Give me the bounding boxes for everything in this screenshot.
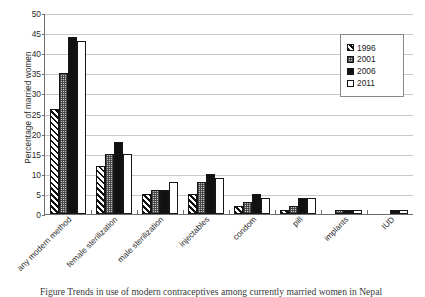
bar-1996-pill[interactable] xyxy=(280,210,289,214)
legend-swatch-diagonal-hatch-icon xyxy=(347,44,354,51)
legend-label: 1996 xyxy=(357,44,376,52)
bar-2001-pill[interactable] xyxy=(289,206,298,214)
bar-1996-condom[interactable] xyxy=(234,206,243,214)
legend-label: 2006 xyxy=(357,67,376,75)
y-axis-tick-label: 35 xyxy=(32,69,41,79)
y-axis-tick-label: 30 xyxy=(32,89,41,99)
x-axis-tick-labels: any modern methodfemale sterilizationmal… xyxy=(44,215,413,285)
bar-2011-implants[interactable] xyxy=(353,210,362,214)
bar-2011-IUD[interactable] xyxy=(399,210,408,214)
x-axis-tick-label: IUD xyxy=(249,215,397,297)
bar-2001-condom[interactable] xyxy=(243,202,252,214)
bar-2006-pill[interactable] xyxy=(298,198,307,214)
bar-group xyxy=(45,14,91,214)
x-axis-tick-label: any modern method xyxy=(0,215,73,297)
bar-1996-male-sterilization[interactable] xyxy=(142,194,151,214)
legend-swatch-gray-dotted-icon xyxy=(347,56,354,63)
bar-2006-condom[interactable] xyxy=(252,194,261,214)
legend: 1996200120062011 xyxy=(340,34,404,97)
y-axis-tick-label: 10 xyxy=(32,170,41,180)
legend-swatch-white-empty-icon xyxy=(347,80,354,87)
legend-item-2001[interactable]: 2001 xyxy=(347,55,398,63)
bar-2006-any-modern-method[interactable] xyxy=(68,37,77,214)
bar-2011-pill[interactable] xyxy=(307,198,316,214)
y-axis-tick-label: 25 xyxy=(32,110,41,120)
bar-1996-any-modern-method[interactable] xyxy=(50,109,59,214)
bar-2006-IUD[interactable] xyxy=(390,210,399,214)
bar-2001-implants[interactable] xyxy=(335,210,344,214)
y-axis-tick-label: 40 xyxy=(32,49,41,59)
y-axis-tick-label: 5 xyxy=(36,190,41,200)
legend-item-1996[interactable]: 1996 xyxy=(347,44,398,52)
y-axis-tick-label: 15 xyxy=(32,150,41,160)
bar-2006-injectables[interactable] xyxy=(206,174,215,214)
bar-group xyxy=(91,14,137,214)
y-axis-tick-label: 0 xyxy=(36,210,41,220)
bar-2001-male-sterilization[interactable] xyxy=(151,190,160,214)
bar-group xyxy=(137,14,183,214)
bar-2011-male-sterilization[interactable] xyxy=(169,182,178,214)
bar-2001-any-modern-method[interactable] xyxy=(59,73,68,214)
legend-swatch-solid-black-icon xyxy=(347,68,354,75)
bar-2011-condom[interactable] xyxy=(261,198,270,214)
bar-2006-male-sterilization[interactable] xyxy=(160,190,169,214)
legend-label: 2011 xyxy=(357,79,375,87)
bar-2011-any-modern-method[interactable] xyxy=(77,41,86,214)
y-axis-tick-label: 45 xyxy=(32,29,41,39)
bar-2011-female-sterilization[interactable] xyxy=(123,154,132,214)
bar-2001-injectables[interactable] xyxy=(197,182,206,214)
bar-group xyxy=(229,14,275,214)
bar-2006-implants[interactable] xyxy=(344,210,353,214)
bar-1996-female-sterilization[interactable] xyxy=(96,166,105,214)
bar-group xyxy=(183,14,229,214)
bar-2011-injectables[interactable] xyxy=(215,178,224,214)
bar-2001-female-sterilization[interactable] xyxy=(105,154,114,214)
bar-1996-injectables[interactable] xyxy=(188,194,197,214)
y-axis-tick-label: 50 xyxy=(32,9,41,19)
figure-caption: Figure Trends in use of modern contracep… xyxy=(40,286,425,297)
bar-2006-female-sterilization[interactable] xyxy=(114,142,123,214)
legend-label: 2001 xyxy=(357,55,376,63)
legend-item-2006[interactable]: 2006 xyxy=(347,67,398,75)
figure-container: Percentage of married women 051015202530… xyxy=(0,0,425,297)
legend-item-2011[interactable]: 2011 xyxy=(347,79,398,87)
y-axis-tick-label: 20 xyxy=(32,130,41,140)
y-axis-title: Percentage of married women xyxy=(24,23,33,193)
bar-group xyxy=(275,14,321,214)
